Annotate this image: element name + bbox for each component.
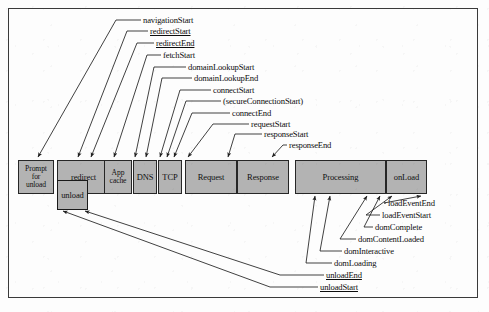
phase-box-processing: Processing	[295, 160, 386, 194]
timing-label-secureConnectionStart: (secureConnectionStart)	[223, 97, 303, 106]
timing-label-domContentLoaded: domContentLoaded	[358, 235, 424, 244]
phase-box-app-cache: Appcache	[104, 160, 132, 194]
phase-box-label: DNS	[137, 173, 154, 182]
diagram-root: PromptforunloadredirectAppcacheDNSTCPReq…	[0, 0, 489, 312]
timing-label-domInteractive: domInteractive	[344, 247, 394, 256]
phase-box-label: cache	[110, 177, 127, 185]
phase-box-label: Request	[198, 173, 225, 182]
timing-label-redirectStart: redirectStart	[150, 27, 191, 36]
timing-label-navigationStart: navigationStart	[143, 16, 193, 25]
phase-box-response: Response	[237, 160, 289, 194]
timing-label-domainLookupStart: domainLookupStart	[188, 63, 254, 72]
timing-label-unloadStart: unloadStart	[320, 283, 358, 292]
phase-box-unload: unload	[57, 180, 88, 210]
diagram-frame	[8, 8, 478, 298]
timing-label-domLoading: domLoading	[334, 259, 376, 268]
phase-box-onload: onLoad	[386, 160, 427, 194]
timing-label-domComplete: domComplete	[375, 223, 422, 232]
phase-box-tcp: TCP	[158, 160, 182, 194]
phase-box-request: Request	[185, 160, 237, 194]
phase-box-label: Response	[247, 173, 279, 182]
timing-label-requestStart: requestStart	[251, 120, 290, 129]
timing-label-domainLookupEnd: domainLookupEnd	[194, 74, 258, 83]
phase-box-label: TCP	[162, 173, 177, 182]
timing-label-loadEventEnd: loadEventEnd	[388, 199, 435, 208]
phase-box-prompt-for-unload: Promptforunload	[18, 160, 54, 194]
phase-box-label: unload	[25, 181, 47, 189]
phase-box-dns: DNS	[133, 160, 157, 194]
timing-label-redirectEnd: redirectEnd	[156, 39, 194, 48]
timing-label-connectEnd: connectEnd	[232, 109, 271, 118]
timing-label-responseStart: responseStart	[264, 130, 308, 139]
phase-box-label: Processing	[323, 173, 359, 182]
timing-label-responseEnd: responseEnd	[289, 141, 331, 150]
timing-label-unloadEnd: unloadEnd	[326, 271, 362, 280]
timing-label-loadEventStart: loadEventStart	[382, 211, 431, 220]
timing-label-fetchStart: fetchStart	[163, 51, 195, 60]
phase-box-label: onLoad	[394, 173, 419, 182]
phase-box-label: unload	[58, 191, 87, 200]
timing-label-connectStart: connectStart	[213, 86, 254, 95]
